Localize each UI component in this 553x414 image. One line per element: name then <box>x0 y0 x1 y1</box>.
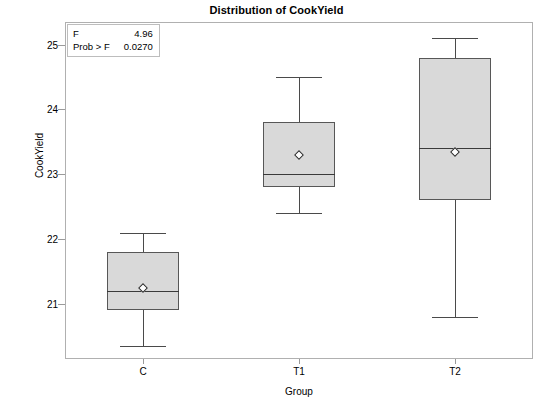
prob-f-row: Prob > F 0.0270 <box>73 40 153 53</box>
upper-whisker-line <box>299 77 300 122</box>
f-statistic-row: F 4.96 <box>73 27 153 40</box>
lower-whisker-cap <box>432 317 478 318</box>
lower-whisker-cap <box>276 213 322 214</box>
prob-f-label: Prob > F <box>73 40 124 53</box>
chart-title: Distribution of CookYield <box>0 4 553 16</box>
y-tick-mark <box>58 239 65 240</box>
lower-whisker-line <box>143 310 144 346</box>
y-tick-label: 23 <box>18 169 58 180</box>
y-tick-label: 25 <box>18 39 58 50</box>
x-tick-mark <box>455 359 456 364</box>
y-tick-mark <box>58 174 65 175</box>
upper-whisker-cap <box>120 233 166 234</box>
x-tick-label-t1: T1 <box>269 366 329 377</box>
x-tick-label-c: C <box>113 366 173 377</box>
x-tick-mark <box>299 359 300 364</box>
box-iqr <box>419 58 491 201</box>
y-tick-mark <box>58 45 65 46</box>
upper-whisker-line <box>455 38 456 57</box>
lower-whisker-cap <box>120 346 166 347</box>
anova-stats-box: F 4.96 Prob > F 0.0270 <box>67 24 160 57</box>
f-label: F <box>73 27 93 40</box>
upper-whisker-line <box>143 233 144 252</box>
x-axis-title: Group <box>65 386 533 397</box>
y-tick-label: 24 <box>18 104 58 115</box>
prob-f-value: 0.0270 <box>124 40 153 53</box>
f-value: 4.96 <box>134 27 153 40</box>
y-tick-mark <box>58 304 65 305</box>
x-tick-label-t2: T2 <box>425 366 485 377</box>
y-tick-label: 21 <box>18 298 58 309</box>
lower-whisker-line <box>455 200 456 317</box>
lower-whisker-line <box>299 187 300 213</box>
upper-whisker-cap <box>432 38 478 39</box>
y-tick-mark <box>58 109 65 110</box>
x-tick-mark <box>143 359 144 364</box>
median-line <box>263 174 335 175</box>
box-iqr <box>107 252 179 310</box>
boxplot-chart: Distribution of CookYield CookYield Grou… <box>0 0 553 414</box>
upper-whisker-cap <box>276 77 322 78</box>
y-tick-label: 22 <box>18 234 58 245</box>
